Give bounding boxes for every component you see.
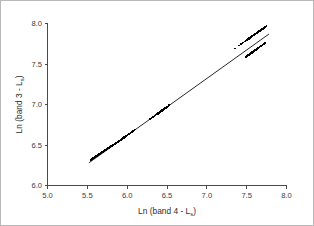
x-tick-label: 7.5 (241, 191, 252, 200)
y-tick-label: 6.0 (31, 181, 42, 190)
x-tick-label: 6.0 (122, 191, 133, 200)
chart-figure: 6.06.57.07.58.0 5.05.56.06.57.07.58.0 Ln… (0, 0, 314, 226)
x-tick-label: 5.0 (42, 191, 53, 200)
y-tick-label: 6.5 (31, 141, 42, 150)
plot-axes (48, 24, 287, 186)
y-tick-label: 7.0 (31, 100, 42, 109)
x-tick-label: 7.0 (202, 191, 213, 200)
x-axis-ticks: 5.05.56.06.57.07.58.0 (42, 186, 292, 200)
x-axis-title: Ln (band 4 - Ls) (138, 206, 196, 217)
x-tick-label: 6.5 (162, 191, 173, 200)
scatter-plot: 6.06.57.07.58.0 5.05.56.06.57.07.58.0 Ln… (1, 1, 314, 226)
regression-line (89, 34, 269, 163)
data-points (90, 25, 267, 160)
y-tick-label: 8.0 (31, 19, 42, 28)
data-point (266, 25, 268, 27)
data-point (264, 42, 266, 44)
y-axis-ticks: 6.06.57.07.58.0 (31, 19, 47, 190)
svg-text:Ln (band 3 - Ls): Ln (band 3 - Ls) (14, 75, 25, 133)
x-tick-label: 5.5 (82, 191, 93, 200)
data-point (234, 48, 236, 50)
y-tick-label: 7.5 (31, 60, 42, 69)
y-axis-title: Ln (band 3 - Ls) (14, 75, 25, 133)
data-point (238, 45, 240, 47)
x-tick-label: 8.0 (281, 191, 292, 200)
